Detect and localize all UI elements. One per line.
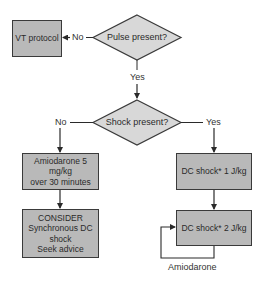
- dc-shock-1-label: DC shock* 1 J/kg: [181, 166, 246, 177]
- amiodarone-box: Amiodarone 5 mg/kg over 30 minutes: [22, 153, 99, 190]
- shock-yes-label: Yes: [206, 117, 221, 128]
- dc-shock-1-box: DC shock* 1 J/kg: [176, 153, 252, 190]
- dc-shock-2-label: DC shock* 2 J/kg: [181, 223, 246, 234]
- consider-box: CONSIDER Synchronous DC shock Seek advic…: [22, 209, 99, 258]
- vt-protocol-label: VT protocol: [15, 33, 58, 44]
- pulse-no-label: No: [72, 32, 84, 43]
- loop-amiodarone-label: Amiodarone: [168, 262, 217, 273]
- pulse-yes-label: Yes: [130, 72, 145, 83]
- dc-shock-2-box: DC shock* 2 J/kg: [176, 210, 252, 246]
- consider-line-1: CONSIDER: [28, 213, 92, 224]
- shock-no-label: No: [55, 117, 67, 128]
- consider-line-2: Synchronous DC: [28, 223, 92, 234]
- pulse-present-label: Pulse present?: [93, 32, 181, 43]
- amiodarone-line-1: Amiodarone 5 mg/kg: [23, 156, 98, 177]
- consider-line-3: shock: [28, 234, 92, 245]
- shock-present-label: Shock present?: [93, 117, 181, 128]
- vt-protocol-box: VT protocol: [12, 20, 62, 57]
- consider-line-4: Seek advice: [28, 244, 92, 255]
- amiodarone-line-2: over 30 minutes: [23, 177, 98, 188]
